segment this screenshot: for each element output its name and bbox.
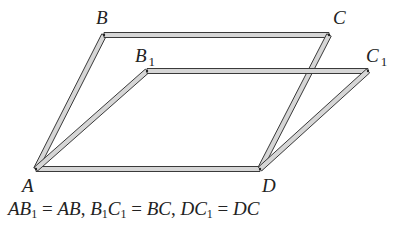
pin-c1 bbox=[367, 70, 369, 72]
bar-b-c bbox=[104, 33, 329, 38]
label-b: B bbox=[96, 7, 108, 28]
bar-a-b bbox=[34, 34, 106, 170]
bar-a-d bbox=[36, 167, 260, 172]
bar-b1-c1 bbox=[147, 69, 368, 74]
pin-a bbox=[35, 168, 37, 170]
bar-d-c1 bbox=[258, 69, 369, 171]
bar-a-b1 bbox=[34, 69, 148, 171]
pin-d bbox=[259, 168, 261, 170]
pin-c bbox=[328, 34, 330, 36]
pin-b1 bbox=[146, 70, 148, 72]
label-c: C bbox=[333, 7, 346, 28]
label-b1: B1 bbox=[135, 45, 155, 69]
equality-caption: AB1 = AB, B1C1 = BC, DC1 = DC bbox=[8, 198, 259, 222]
label-d: D bbox=[261, 175, 276, 196]
label-c1: C1 bbox=[366, 45, 387, 69]
pin-b bbox=[103, 34, 105, 36]
label-a: A bbox=[20, 175, 34, 196]
linkage-bars bbox=[34, 33, 370, 172]
bar-c-d bbox=[258, 34, 331, 170]
